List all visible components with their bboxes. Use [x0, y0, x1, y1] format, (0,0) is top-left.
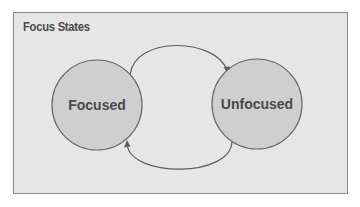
state-focused: Focused: [52, 60, 142, 150]
arrowhead-icon: [124, 140, 131, 148]
state-label-unfocused: Unfocused: [221, 96, 293, 112]
state-diagram: Focused Unfocused: [0, 0, 360, 207]
transition-focused-to-unfocused: [130, 45, 230, 75]
transition-unfocused-to-focused: [124, 140, 232, 169]
state-label-focused: Focused: [68, 97, 126, 113]
state-unfocused: Unfocused: [212, 59, 302, 149]
